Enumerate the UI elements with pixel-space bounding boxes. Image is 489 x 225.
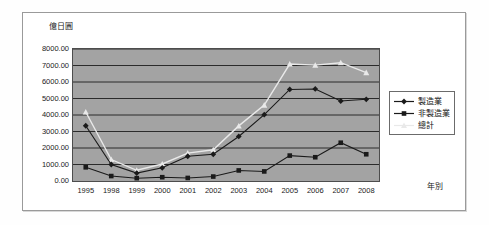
x-tick-label: 2003 <box>230 186 247 195</box>
data-point-marker <box>402 111 407 116</box>
legend-triangle-icon <box>393 120 415 131</box>
legend-diamond-icon <box>393 96 415 107</box>
chart-legend: 製造業非製造業總計 <box>389 91 455 135</box>
data-point-marker <box>401 98 407 104</box>
legend-item: 製造業 <box>393 95 450 107</box>
chart-canvas: 億日圓 年別 8000.007000.006000.005000.004000.… <box>23 13 467 212</box>
chart-frame: 億日圓 年別 8000.007000.006000.005000.004000.… <box>22 12 466 211</box>
legend-label: 製造業 <box>418 96 442 107</box>
x-tick-label: 2001 <box>179 186 196 195</box>
x-tick-label: 2007 <box>332 186 349 195</box>
x-tick-label: 2000 <box>154 186 171 195</box>
x-tick-label: 2008 <box>358 186 375 195</box>
legend-label: 非製造業 <box>418 108 450 119</box>
x-tick-label: 1995 <box>77 186 94 195</box>
x-tick-label: 1999 <box>128 186 145 195</box>
legend-item: 非製造業 <box>393 107 450 119</box>
legend-label: 總計 <box>418 120 434 131</box>
x-tick-label: 2006 <box>307 186 324 195</box>
x-tick-label: 2002 <box>205 186 222 195</box>
x-tick-label: 2004 <box>256 186 273 195</box>
legend-item: 總計 <box>393 119 450 131</box>
x-tick-label: 2005 <box>281 186 298 195</box>
x-tick-label: 1998 <box>103 186 120 195</box>
legend-square-icon <box>393 108 415 119</box>
